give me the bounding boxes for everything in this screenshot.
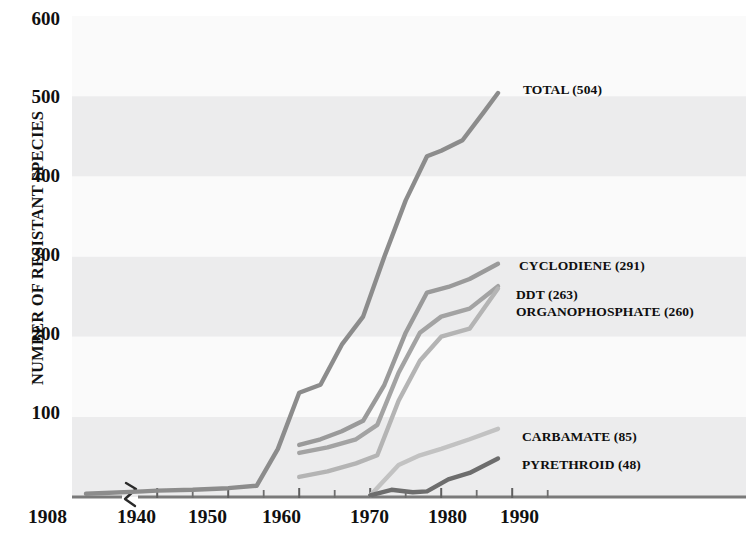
y-tick-label-300: 300 bbox=[2, 244, 60, 266]
plot-background-bands bbox=[72, 16, 746, 497]
y-tick-label-100: 100 bbox=[2, 402, 60, 424]
series-label-cyclodiene: CYCLODIENE (291) bbox=[519, 258, 645, 274]
y-tick-label-400: 400 bbox=[2, 165, 60, 187]
x-tick-label-1960: 1960 bbox=[262, 506, 301, 528]
x-tick-label-1980: 1980 bbox=[428, 506, 467, 528]
x-tick-label-1970: 1970 bbox=[350, 506, 389, 528]
series-label-ddt: DDT (263) bbox=[516, 287, 578, 303]
series-label-total: TOTAL (504) bbox=[523, 82, 602, 98]
y-tick-label-500: 500 bbox=[2, 86, 60, 108]
series-label-organophosphate: ORGANOPHOSPHATE (260) bbox=[516, 304, 694, 320]
y-tick-label-600: 600 bbox=[2, 8, 60, 30]
x-tick-label-1950: 1950 bbox=[188, 506, 227, 528]
series-label-pyrethroid: PYRETHROID (48) bbox=[522, 457, 641, 473]
y-tick-label-200: 200 bbox=[2, 323, 60, 345]
x-tick-label-1990: 1990 bbox=[500, 506, 539, 528]
x-tick-label-1940: 1940 bbox=[117, 506, 156, 528]
x-tick-label-1908: 1908 bbox=[28, 506, 67, 528]
chart-container: NUMBER OF RESISTANT SPECIES 600 500 400 … bbox=[0, 0, 746, 536]
series-label-carbamate: CARBAMATE (85) bbox=[522, 429, 637, 445]
